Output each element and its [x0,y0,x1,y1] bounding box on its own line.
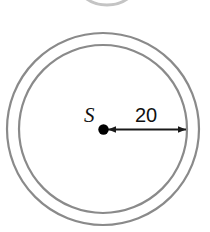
cropped-arc-top-group [78,0,136,5]
geometry-figure: S 20 [0,0,210,232]
center-point-label: S [84,103,95,127]
radius-length-label: 20 [135,104,157,126]
cropped-arc-top-icon [78,0,136,5]
figure-canvas: S 20 [0,0,210,232]
center-point-dot [98,124,108,134]
